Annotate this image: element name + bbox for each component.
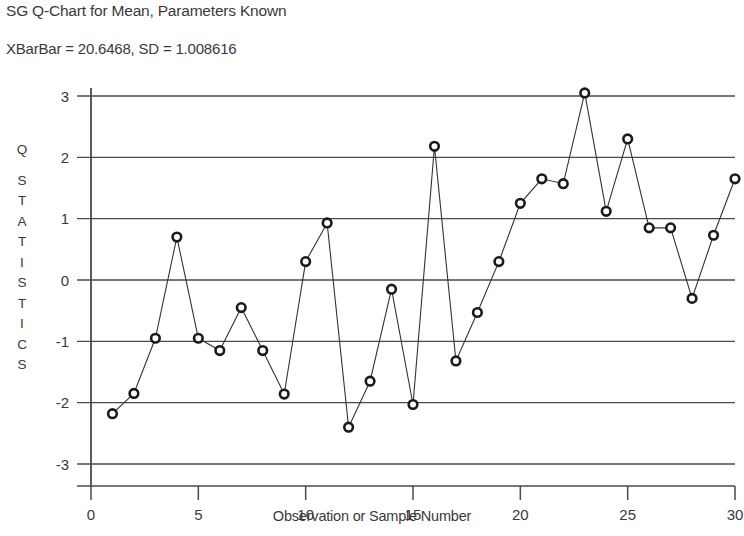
data-point: [194, 334, 203, 343]
data-point: [280, 390, 289, 399]
data-point: [731, 175, 740, 184]
data-point: [258, 346, 267, 355]
data-point: [559, 179, 568, 188]
data-point: [688, 294, 697, 303]
data-point: [344, 423, 353, 432]
data-point: [430, 142, 439, 151]
data-point: [323, 219, 332, 228]
data-point: [173, 233, 182, 242]
data-point: [623, 135, 632, 144]
y-tick-label: -2: [56, 394, 69, 411]
data-point: [409, 400, 418, 409]
data-point: [473, 308, 482, 317]
data-point: [151, 334, 160, 343]
x-axis-title: Observation or Sample Number: [0, 508, 744, 524]
x-axis-ticks: [91, 486, 735, 500]
data-point: [366, 377, 375, 386]
data-point: [666, 224, 675, 233]
gridlines: [77, 96, 735, 464]
data-point: [130, 389, 139, 398]
data-points: [108, 89, 739, 432]
y-tick-label: -3: [56, 456, 69, 473]
data-point: [216, 346, 225, 355]
data-point: [516, 199, 525, 208]
y-tick-label: 1: [61, 210, 69, 227]
data-point: [538, 175, 547, 184]
y-tick-label: -1: [56, 333, 69, 350]
data-point: [645, 224, 654, 233]
data-line: [112, 93, 735, 427]
data-point: [602, 207, 611, 216]
q-chart: SG Q-Chart for Mean, Parameters Known XB…: [0, 0, 744, 536]
y-tick-labels: -3-2-10123: [56, 88, 69, 473]
data-point: [301, 257, 310, 266]
data-point: [709, 231, 718, 240]
y-tick-label: 2: [61, 149, 69, 166]
data-point: [452, 357, 461, 366]
data-point: [387, 285, 396, 294]
x-axis-title-text: Observation or Sample Number: [273, 508, 471, 524]
plot-area: -3-2-10123 051015202530: [0, 0, 744, 536]
data-point: [495, 257, 504, 266]
data-point: [580, 89, 589, 98]
y-tick-label: 0: [61, 272, 69, 289]
y-tick-label: 3: [61, 88, 69, 105]
data-point: [108, 409, 117, 418]
data-point: [237, 303, 246, 312]
